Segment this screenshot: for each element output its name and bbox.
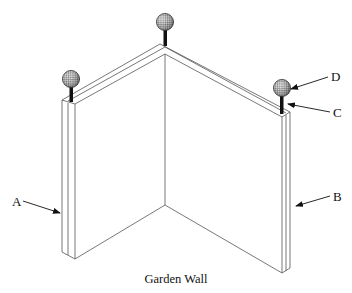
post-right [274,80,291,115]
post-stem [70,86,74,102]
arrow-c [288,104,330,112]
post-left [63,71,80,103]
figure-caption: Garden Wall [0,272,352,287]
leader-arrows [23,77,330,213]
post-stem [164,30,168,46]
label-a: A [12,195,21,208]
diagram-canvas: A B C D Garden Wall [0,0,352,293]
post-center [157,14,174,47]
label-b: B [333,190,342,203]
label-d: D [331,70,340,83]
arrow-b [296,196,330,206]
arrow-d [291,77,328,89]
wall-outline [62,44,290,273]
garden-wall-drawing [0,0,352,293]
post-stem [280,95,284,114]
label-c: C [333,106,342,119]
arrow-a [23,201,60,213]
